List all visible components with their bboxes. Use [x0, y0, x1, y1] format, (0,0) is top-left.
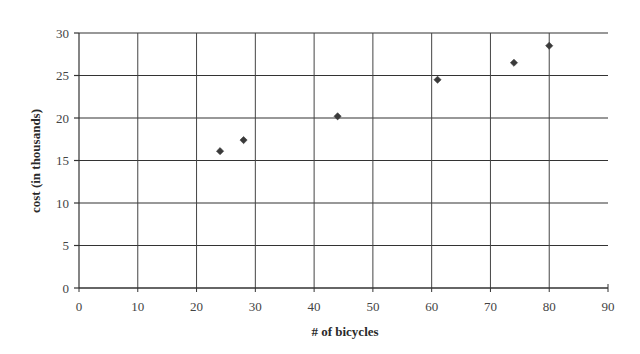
x-tick-label: 80	[543, 299, 556, 314]
y-tick-label: 0	[63, 281, 70, 296]
y-tick-label: 25	[56, 68, 69, 83]
grid-lines	[79, 33, 608, 288]
data-point-diamond-icon	[240, 137, 247, 144]
x-tick-label: 30	[249, 299, 262, 314]
axes	[74, 33, 608, 292]
data-points	[216, 42, 552, 155]
y-tick-label: 10	[56, 196, 69, 211]
data-point-diamond-icon	[510, 59, 517, 66]
x-tick-label: 70	[484, 299, 497, 314]
x-tick-label: 90	[602, 299, 615, 314]
y-axis-title: cost (in thousands)	[28, 109, 43, 213]
y-tick-labels: 051015202530	[56, 26, 69, 296]
x-tick-label: 20	[190, 299, 203, 314]
x-tick-label: 10	[131, 299, 144, 314]
x-tick-label: 40	[308, 299, 321, 314]
x-tick-labels: 0102030405060708090	[76, 299, 615, 314]
data-point-diamond-icon	[546, 42, 553, 49]
x-axis-title: # of bicycles	[311, 324, 378, 339]
y-tick-label: 15	[56, 153, 69, 168]
x-tick-label: 60	[425, 299, 438, 314]
y-tick-label: 30	[56, 26, 69, 41]
data-point-diamond-icon	[334, 113, 341, 120]
data-point-diamond-icon	[216, 148, 223, 155]
x-tick-label: 0	[76, 299, 83, 314]
y-tick-label: 20	[56, 111, 69, 126]
data-point-diamond-icon	[434, 76, 441, 83]
x-tick-label: 50	[366, 299, 379, 314]
y-tick-label: 5	[63, 238, 70, 253]
scatter-chart: 0102030405060708090 051015202530 # of bi…	[0, 0, 640, 354]
